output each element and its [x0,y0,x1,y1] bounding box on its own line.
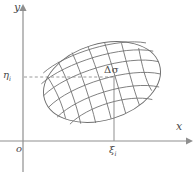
region-outline [34,28,171,136]
figure-canvas: y x o ηi ξi Δσ [0,0,193,180]
mesh-v-line [54,76,159,118]
mesh-u-line [48,75,66,120]
eta-i-label: ηi [3,70,11,82]
mesh-v-line [41,33,146,74]
eta-subscript: i [9,75,11,82]
x-axis-arrowhead [186,137,193,144]
delta-sigma-label: Δσ [104,65,119,75]
mesh-u-lines [43,33,156,133]
xi-subscript: i [115,150,117,157]
axes-group [0,6,186,172]
mesh-u-line [137,48,152,91]
mesh-v-line [38,40,153,85]
diagram-svg [0,0,193,180]
region-group [34,28,171,136]
origin-label: o [16,144,22,154]
xi-i-label: ξi [109,145,117,157]
y-axis-arrowhead [19,4,26,11]
x-axis-label: x [176,121,182,132]
mesh-v-lines [35,31,169,129]
y-axis-label: y [14,2,20,13]
